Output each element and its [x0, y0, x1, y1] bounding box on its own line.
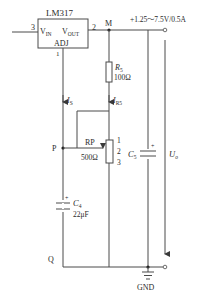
c5-label: C5: [128, 149, 137, 160]
rp-pin1: 1: [117, 136, 121, 145]
vout-label: VOUT: [62, 27, 80, 37]
ir5-label: IR5: [112, 96, 122, 106]
schematic: LM317 VIN VOUT ADJ 3 2 1 M +1.25～7.5V/0.…: [0, 0, 211, 300]
node-q-label: Q: [48, 255, 54, 264]
node-p-label: P: [52, 144, 57, 153]
ground-icon: [142, 267, 154, 279]
svg-text:+: +: [151, 143, 155, 149]
gnd-label: GND: [137, 283, 155, 292]
r5-value: 100Ω: [114, 73, 131, 82]
vin-label: VIN: [40, 27, 52, 37]
c4-value: 22μF: [73, 210, 89, 219]
rp-pin2: 2: [117, 147, 121, 156]
r5-label: R5: [114, 63, 123, 73]
adj-label: ADJ: [54, 39, 69, 48]
is-label: IS: [66, 96, 73, 106]
potentiometer-rp: RP 500Ω 1 2 3: [81, 136, 121, 167]
uo-label: Uo: [169, 149, 178, 160]
capacitor-c4: + C4 22μF: [56, 195, 89, 219]
capacitor-c5: + C5: [128, 143, 156, 160]
resistor-r5: R5 100Ω: [106, 62, 131, 82]
node-m-label: M: [105, 19, 112, 28]
pin-in-number: 3: [31, 23, 35, 32]
pin-adj-number: 1: [56, 50, 60, 58]
circuit-diagram: LM317 VIN VOUT ADJ 3 2 1 M +1.25～7.5V/0.…: [0, 0, 211, 300]
output-spec: +1.25～7.5V/0.5A: [130, 15, 187, 24]
rp-value: 500Ω: [81, 153, 98, 162]
c4-label: C4: [73, 198, 82, 209]
output-terminal-negative: [163, 265, 167, 269]
output-terminal-positive: [163, 28, 167, 32]
regulator-name: LM317: [46, 8, 74, 18]
rp-label: RP: [85, 138, 95, 147]
rp-pin3: 3: [117, 158, 121, 167]
pin-out-number: 2: [92, 23, 96, 32]
